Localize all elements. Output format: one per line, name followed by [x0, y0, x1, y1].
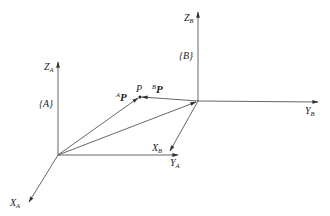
- x-b-label: XB: [152, 143, 162, 155]
- x-a-label: XA: [10, 198, 20, 210]
- frame-b-axes: [170, 12, 318, 151]
- y-b-label: YB: [305, 106, 315, 118]
- vector-a-p-symbol: P: [120, 91, 127, 103]
- vector-b-p-symbol: P: [156, 83, 163, 95]
- point-p-dot: [138, 95, 141, 98]
- vector-b-p-label: BP: [152, 84, 163, 95]
- frame-b-label: {B}: [179, 51, 193, 61]
- point-p-label: P: [136, 84, 142, 94]
- frame-a-label: {A}: [39, 99, 53, 109]
- x-b-axis: [170, 101, 198, 151]
- vector-a-to-b-origin: [58, 102, 196, 155]
- vector-b-p: [142, 97, 198, 101]
- x-a-axis: [29, 155, 58, 202]
- vectors: [58, 97, 198, 155]
- z-a-subscript: A: [50, 66, 54, 73]
- y-b-subscript: B: [311, 110, 315, 117]
- x-b-subscript: B: [158, 147, 162, 154]
- y-a-subscript: A: [176, 162, 180, 169]
- z-a-label: ZA: [44, 62, 54, 74]
- x-a-subscript: A: [16, 202, 20, 209]
- y-b-axis: [198, 101, 318, 102]
- z-b-subscript: B: [190, 17, 194, 24]
- y-a-label: YA: [170, 158, 180, 170]
- vector-a-p-label: AP: [116, 92, 127, 103]
- vector-a-p: [58, 98, 138, 155]
- z-b-label: ZB: [184, 13, 194, 25]
